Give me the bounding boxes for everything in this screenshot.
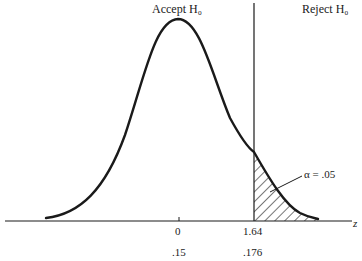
alpha-label: α = .05 <box>304 168 335 180</box>
tick-label-sample-176: .176 <box>243 246 262 258</box>
tick-label-sample-15: .15 <box>172 246 186 258</box>
normal-curve <box>46 19 318 219</box>
rejection-region <box>254 152 318 221</box>
alpha-pointer <box>270 176 302 192</box>
accept-region-label: Accept H₀ <box>152 2 202 17</box>
tick-label-z-1-64: 1.64 <box>243 225 262 237</box>
tick-label-z-0: 0 <box>175 225 181 237</box>
reject-region-label: Reject H₀ <box>302 2 349 17</box>
z-axis-label: z <box>353 217 357 229</box>
normal-distribution-diagram <box>0 0 362 261</box>
